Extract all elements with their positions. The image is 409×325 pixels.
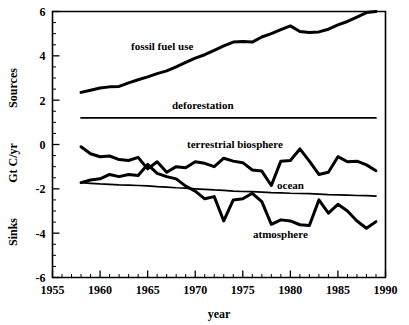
annotation-atmosphere: atmosphere — [253, 228, 308, 240]
y-axis-title-part: Gt C/yr — [6, 142, 20, 182]
x-axis-title: year — [208, 307, 231, 321]
annotation-fossil-fuel-use: fossil fuel use — [131, 40, 193, 52]
annotation-deforestation: deforestation — [172, 99, 234, 111]
x-tick-label: 1990 — [374, 283, 398, 297]
x-tick-label: 1975 — [231, 283, 255, 297]
y-tick-label: 4 — [40, 49, 46, 63]
annotation-ocean: ocean — [277, 179, 304, 191]
chart-canvas: 19551960196519701975198019851990 6420-2-… — [0, 0, 409, 325]
y-axis-title: SinksGt C/yrSources — [6, 68, 20, 246]
y-tick-label: 6 — [40, 5, 46, 19]
y-tick-label: 2 — [40, 94, 46, 108]
x-tick-label: 1985 — [326, 283, 350, 297]
y-tick-label: -2 — [36, 182, 46, 196]
annotation-terrestrial-biosphere: terrestrial biosphere — [187, 138, 283, 150]
carbon-cycle-chart: 19551960196519701975198019851990 6420-2-… — [0, 0, 409, 325]
x-tick-label: 1965 — [136, 283, 160, 297]
y-tick-label: -6 — [36, 271, 46, 285]
x-tick-label: 1980 — [278, 283, 302, 297]
x-tick-label: 1960 — [88, 283, 112, 297]
y-tick-label: -4 — [36, 227, 46, 241]
y-tick-label: 0 — [40, 138, 46, 152]
y-axis-title-part: Sources — [6, 68, 20, 108]
x-tick-label: 1970 — [183, 283, 207, 297]
y-axis-title-part: Sinks — [6, 218, 20, 246]
